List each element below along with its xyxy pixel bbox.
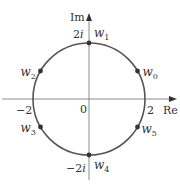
- root-label-w5: w5: [141, 122, 156, 138]
- tick-label-2: 2: [147, 104, 154, 117]
- root-label-w1: w1: [94, 26, 109, 42]
- root-label-w4: w4: [94, 158, 109, 174]
- real-axis-arrow-icon: [169, 96, 177, 102]
- origin-label: 0: [80, 103, 87, 116]
- root-label-w0: w0: [142, 65, 157, 81]
- root-point-w3: [38, 125, 43, 130]
- tick-label-neg2: −2: [16, 104, 32, 117]
- imaginary-axis-arrow-icon: [86, 13, 92, 21]
- root-point-w5: [135, 125, 140, 130]
- sixth-roots-diagram: Im Re 0 −2 2 2i −2i w0w1w2w3w4w5: [0, 0, 180, 192]
- root-point-w1: [87, 41, 92, 46]
- tick-label-neg2i: −2i: [66, 162, 86, 175]
- root-point-w4: [87, 153, 92, 158]
- root-label-w2: w2: [21, 65, 36, 81]
- x-axis-label: Re: [163, 104, 178, 117]
- root-label-w3: w3: [21, 121, 36, 137]
- y-axis-label: Im: [70, 11, 85, 24]
- tick-label-2i: 2i: [73, 28, 84, 41]
- root-point-w0: [135, 69, 140, 74]
- root-point-w2: [38, 69, 43, 74]
